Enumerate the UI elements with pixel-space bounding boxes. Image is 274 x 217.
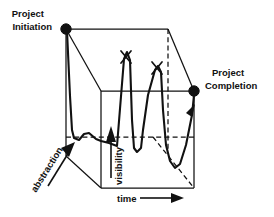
figure-canvas: Project Initiation Project Completion ti… xyxy=(0,0,274,217)
project-initiation-label-line1: Project xyxy=(12,8,45,19)
box-top-edge-right-slant xyxy=(168,29,194,91)
abstraction-axis-label: abstraction xyxy=(28,145,65,194)
time-axis-arrow xyxy=(140,193,184,203)
time-axis-label: time xyxy=(117,193,137,204)
project-completion-label-line2: Completion xyxy=(205,80,257,91)
milestone-markers xyxy=(121,51,162,74)
project-completion-label-line1: Project xyxy=(212,67,245,78)
box-hidden-diagonal-edge xyxy=(153,137,194,188)
text-labels: Project Initiation Project Completion ti… xyxy=(12,8,258,204)
project-completion-dot xyxy=(189,86,199,96)
box-bottom-left-slant-edge xyxy=(66,156,101,188)
project-initiation-label-line2: Initiation xyxy=(12,21,52,32)
milestone-x-2 xyxy=(152,62,162,74)
project-visibility-figure: Project Initiation Project Completion ti… xyxy=(0,0,274,217)
visibility-axis-label: visibility xyxy=(113,146,124,185)
box-top-edge-left-slant xyxy=(66,29,101,91)
project-initiation-dot xyxy=(61,24,71,34)
